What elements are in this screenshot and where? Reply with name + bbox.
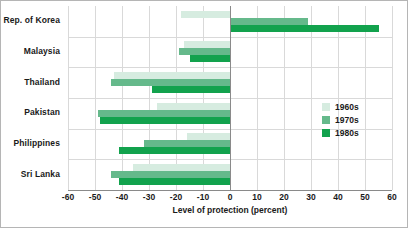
legend-item: 1980s [322,127,359,139]
x-axis-tick-label: 60 [387,192,396,202]
y-axis-label: Malaysia [24,46,60,56]
legend-swatch-icon [322,103,330,111]
bar [111,171,230,178]
bar [181,11,230,18]
x-axis-tick-label: 0 [228,192,233,202]
legend-label: 1980s [335,128,359,138]
plot-area [68,6,392,190]
x-axis-tick-label: 50 [360,192,369,202]
bar [184,41,230,48]
bar [119,178,230,185]
y-axis-category-labels: Rep. of KoreaMalaysiaThailandPakistanPhi… [0,6,64,190]
y-axis-label: Pakistan [24,107,60,117]
protection-level-bar-chart: Rep. of KoreaMalaysiaThailandPakistanPhi… [0,0,408,228]
y-axis-label: Sri Lanka [21,169,60,179]
x-axis-tick-label: -10 [197,192,209,202]
x-axis-tick-label: -20 [170,192,182,202]
x-axis-tick-label: 40 [333,192,342,202]
bar [230,25,379,32]
bar [152,86,230,93]
x-axis-tick-label: -60 [62,192,74,202]
y-axis-label: Thailand [24,77,60,87]
gridline [392,6,393,190]
x-axis-tick-label: 10 [252,192,261,202]
x-axis-title-text: Level of protection (percent) [173,205,288,215]
legend-swatch-icon [322,116,330,124]
bar [157,103,230,110]
bar [98,110,230,117]
legend-item: 1960s [322,101,359,113]
x-axis-line [68,190,392,191]
legend-label: 1970s [335,115,359,125]
x-axis-tick-label: -40 [116,192,128,202]
x-axis-tick-label: 20 [279,192,288,202]
bar [111,79,230,86]
bar [144,140,230,147]
bar [230,18,308,25]
bar [114,72,230,79]
x-axis-title: Level of protection (percent) [0,205,408,215]
bar [187,133,230,140]
x-axis-tick-label: -50 [89,192,101,202]
x-axis-tick-labels: -60-50-40-30-20-100102030405060 [68,192,392,206]
x-axis-tick-label: 30 [306,192,315,202]
legend: 1960s1970s1980s [322,101,359,140]
legend-label: 1960s [335,102,359,112]
legend-swatch-icon [322,129,330,137]
bar [190,55,231,62]
legend-item: 1970s [322,114,359,126]
bar [119,147,230,154]
x-axis-tick-label: -30 [143,192,155,202]
y-axis-label: Philippines [14,138,60,148]
bar [133,164,230,171]
bar [100,117,230,124]
zero-axis-line [230,6,231,190]
y-axis-label: Rep. of Korea [3,15,60,25]
bar [179,48,230,55]
